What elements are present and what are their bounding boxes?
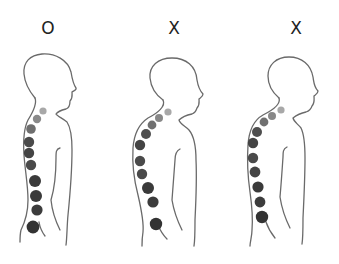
vertebra-8 xyxy=(30,190,42,202)
vertebra-5 xyxy=(24,148,34,158)
vertebra-10 xyxy=(150,218,162,230)
figure-3-buttock-line xyxy=(266,222,275,238)
vertebra-4 xyxy=(252,127,262,137)
vertebra-10 xyxy=(27,221,40,234)
vertebra-6 xyxy=(26,160,36,170)
vertebra-4 xyxy=(141,129,151,139)
vertebra-5 xyxy=(135,140,145,150)
vertebra-3 xyxy=(26,124,36,134)
vertebra-1 xyxy=(164,108,171,115)
vertebra-9 xyxy=(31,204,42,215)
figure-2-arm-outline xyxy=(172,149,182,230)
vertebra-6 xyxy=(248,153,258,163)
figure-3-arm-outline xyxy=(280,147,290,228)
vertebra-2 xyxy=(155,114,163,122)
vertebra-7 xyxy=(29,175,41,187)
figure-2-spine-vertebrae xyxy=(135,108,172,230)
vertebra-4 xyxy=(24,137,34,147)
vertebra-7 xyxy=(137,169,147,179)
posture-diagram xyxy=(0,0,339,264)
vertebra-3 xyxy=(260,118,269,127)
vertebra-6 xyxy=(135,156,145,166)
figure-3-head-outline xyxy=(268,57,318,244)
vertebra-2 xyxy=(268,112,276,120)
figure-2-silhouette xyxy=(133,58,203,246)
vertebra-9 xyxy=(255,197,266,208)
vertebra-10 xyxy=(256,211,268,223)
vertebra-1 xyxy=(277,106,284,113)
vertebra-7 xyxy=(250,167,261,178)
vertebra-8 xyxy=(142,182,154,194)
vertebra-9 xyxy=(147,196,158,207)
vertebra-5 xyxy=(248,138,258,148)
vertebra-8 xyxy=(252,181,263,192)
figure-1-arm-outline xyxy=(51,148,60,230)
figure-1-spine-vertebrae xyxy=(24,107,47,233)
vertebra-2 xyxy=(33,115,41,123)
vertebra-3 xyxy=(148,121,157,130)
figure-1-buttock-line xyxy=(39,222,45,236)
vertebra-1 xyxy=(39,107,46,114)
